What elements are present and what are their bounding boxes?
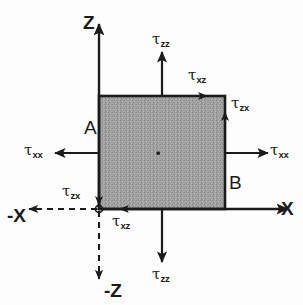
axis-label-z: Z [83, 13, 95, 32]
tau-subscript: xz [197, 74, 207, 85]
stress-label-tau-zz-bottom: τzz [152, 267, 170, 283]
tau-symbol: τ [270, 141, 278, 159]
tau-symbol: τ [231, 94, 239, 112]
tau-subscript: xx [279, 149, 289, 160]
corner-label-a: A [84, 118, 97, 137]
stress-label-tau-xz-top: τxz [188, 68, 206, 84]
tau-symbol: τ [112, 212, 120, 230]
tau-subscript: xz [121, 220, 131, 231]
stress-label-tau-zx-right: τzx [231, 96, 249, 112]
tau-subscript: zz [161, 273, 170, 284]
stress-label-tau-xx-right: τxx [270, 143, 289, 159]
tau-symbol: τ [188, 66, 196, 84]
stress-label-tau-zx-left: τzx [62, 184, 80, 200]
tau-symbol: τ [152, 265, 160, 283]
tau-subscript: zx [71, 190, 81, 201]
tau-subscript: zz [161, 38, 170, 49]
tau-symbol: τ [152, 30, 160, 48]
stress-label-tau-xx-left: τxx [24, 143, 43, 159]
tau-symbol: τ [62, 182, 70, 200]
tau-subscript: xx [33, 149, 43, 160]
corner-label-b: B [229, 173, 242, 192]
element-center-dot [157, 152, 160, 155]
axis-label-negative-z: -Z [104, 281, 122, 300]
stress-label-tau-xz-bottom: τxz [112, 214, 130, 230]
stress-element-figure: Z X -X -Z A B τzz τzz τxx τxx τxz τxz τz… [0, 0, 303, 305]
tau-symbol: τ [24, 141, 32, 159]
stress-label-tau-zz-top: τzz [152, 32, 170, 48]
axis-label-x: X [281, 199, 294, 218]
stress-element-square [99, 96, 225, 209]
axis-label-negative-x: -X [7, 206, 26, 225]
tau-subscript: zx [240, 102, 250, 113]
